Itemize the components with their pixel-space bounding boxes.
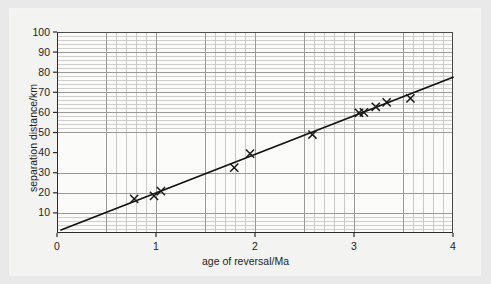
figure-root: 102030405060708090100 01234 age of rever… xyxy=(0,0,491,284)
y-tick-label: 60 xyxy=(0,107,50,118)
x-axis-label: age of reversal/Ma xyxy=(0,255,491,267)
y-tick-label: 90 xyxy=(0,47,50,58)
y-tick-label: 80 xyxy=(0,67,50,78)
chart-figure: 102030405060708090100 01234 age of rever… xyxy=(0,0,491,284)
y-tick-label: 30 xyxy=(0,167,50,178)
x-tick-label: 4 xyxy=(438,241,468,252)
x-tick-label: 1 xyxy=(141,241,171,252)
y-tick-label: 40 xyxy=(0,147,50,158)
x-tick-label: 3 xyxy=(339,241,369,252)
axis-ticks xyxy=(53,32,453,237)
y-axis-label: separation distance/km xyxy=(27,58,39,218)
y-tick-label: 10 xyxy=(0,207,50,218)
y-tick-label: 70 xyxy=(0,87,50,98)
y-tick-label: 100 xyxy=(0,27,50,38)
data-point xyxy=(230,164,238,172)
data-point xyxy=(157,187,165,195)
y-tick-label: 20 xyxy=(0,187,50,198)
data-point xyxy=(406,94,414,102)
x-tick-label: 2 xyxy=(240,241,270,252)
x-tick-label: 0 xyxy=(42,241,72,252)
best-fit-line xyxy=(61,77,453,230)
y-tick-label: 50 xyxy=(0,127,50,138)
